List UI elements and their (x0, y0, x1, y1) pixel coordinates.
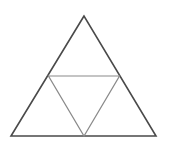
inner-midpoint-triangle (49, 76, 120, 136)
triangle-diagram (0, 0, 172, 154)
